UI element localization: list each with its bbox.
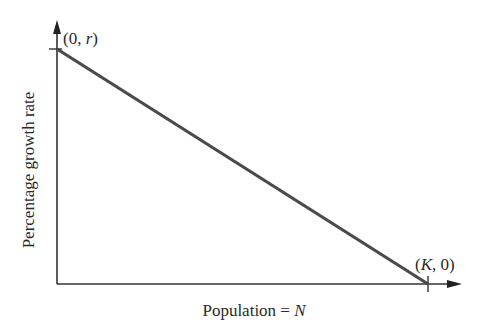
y-axis-label: Percentage growth rate	[19, 92, 38, 249]
x-axis-label: Population = N	[202, 301, 307, 320]
x-axis-arrow-icon	[447, 280, 462, 288]
y-axis-arrow-icon	[53, 20, 61, 34]
x-intercept-label: (K, 0)	[415, 255, 455, 274]
growth-rate-diagram: (0, r) (K, 0) Population = N Percentage …	[0, 0, 485, 330]
growth-rate-line	[57, 49, 428, 284]
y-intercept-label: (0, r)	[63, 29, 98, 48]
